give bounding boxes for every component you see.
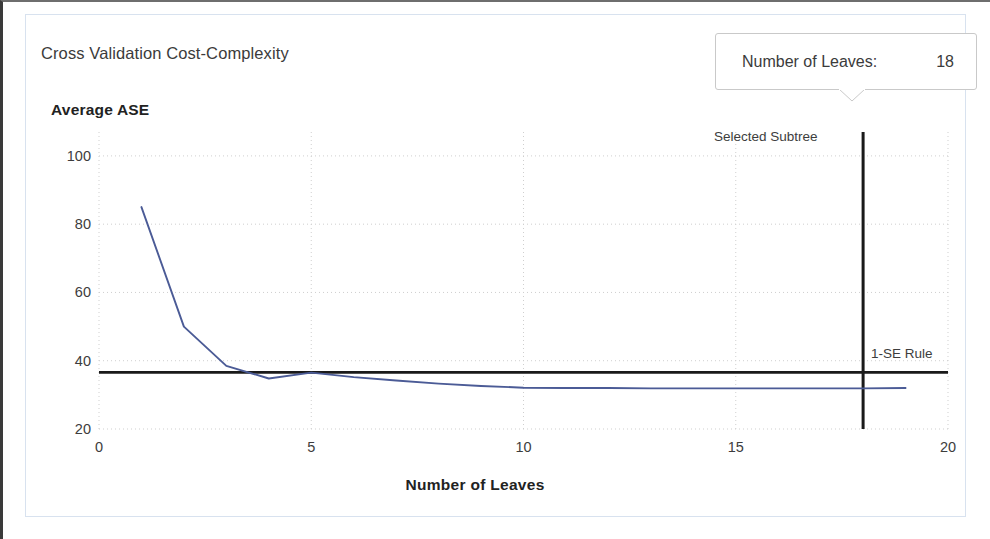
y-axis-tick-labels: 20406080100 — [39, 132, 91, 429]
cross-validation-chart: Cross Validation Cost-Complexity Average… — [3, 2, 990, 539]
y-axis-tick-label: 60 — [45, 284, 91, 300]
x-axis-tick-label: 5 — [307, 439, 315, 455]
one-se-rule-label: 1-SE Rule — [871, 346, 933, 361]
chart-title: Cross Validation Cost-Complexity — [41, 44, 289, 63]
x-axis-tick-label: 15 — [728, 439, 744, 455]
tooltip-label: Number of Leaves: — [742, 53, 877, 71]
y-axis-tick-label: 40 — [45, 353, 91, 369]
x-axis-tick-labels: 05101520 — [99, 439, 948, 461]
tooltip-value: 18 — [936, 53, 954, 71]
y-axis-tick-label: 80 — [45, 216, 91, 232]
plot-svg — [99, 132, 948, 429]
selected-subtree-label: Selected Subtree — [714, 129, 818, 144]
y-axis-tick-label: 20 — [45, 421, 91, 437]
x-axis-tick-label: 20 — [940, 439, 956, 455]
x-axis-tick-label: 0 — [95, 439, 103, 455]
x-axis-tick-label: 10 — [515, 439, 531, 455]
number-of-leaves-tooltip: Number of Leaves: 18 — [715, 33, 977, 90]
plot-region — [99, 132, 948, 429]
y-axis-title: Average ASE — [51, 101, 149, 119]
y-axis-tick-label: 100 — [45, 148, 91, 164]
application-window: Cross Validation Cost-Complexity Average… — [0, 0, 990, 539]
tooltip-pointer-icon — [839, 89, 865, 102]
x-axis-title: Number of Leaves — [3, 476, 990, 494]
